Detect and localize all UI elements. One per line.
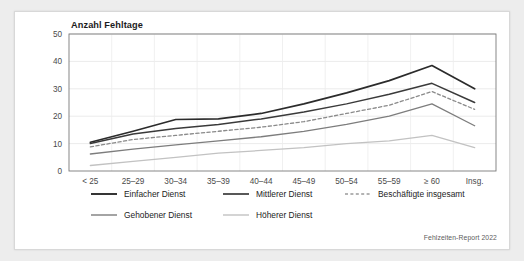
y-axis-tick-label: 30: [53, 85, 63, 94]
source-note: Fehlzeiten-Report 2022: [424, 234, 497, 241]
legend-label-besch-ftigte-insgesamt: Beschäftigte insgesamt: [378, 189, 465, 199]
legend-label-gehobener-dienst: Gehobener Dienst: [124, 210, 193, 220]
x-axis-tick-label: Insg.: [466, 177, 484, 186]
legend-label-einfacher-dienst: Einfacher Dienst: [124, 189, 186, 199]
x-axis-tick-label: 25–29: [122, 177, 145, 186]
x-axis-tick-label: 35–39: [207, 177, 230, 186]
x-axis-tick-label: 30–34: [164, 177, 187, 186]
y-axis-tick-label: 0: [57, 167, 62, 176]
x-axis-tick-label: ≥ 60: [424, 177, 440, 186]
line-chart: 01020304050< 2525–2930–3435–3940–4445–49…: [15, 12, 511, 251]
legend-label-h-herer-dienst: Höherer Dienst: [256, 210, 313, 220]
y-axis-tick-label: 50: [53, 30, 63, 39]
x-axis-tick-label: 45–49: [292, 177, 315, 186]
chart-canvas: 01020304050< 2525–2930–3435–3940–4445–49…: [15, 12, 511, 251]
x-axis-tick-label: 55–59: [378, 177, 401, 186]
y-axis-tick-label: 20: [53, 112, 63, 121]
y-axis-tick-label: 40: [53, 57, 63, 66]
x-axis-tick-label: 50–54: [335, 177, 358, 186]
legend-label-mittlerer-dienst: Mittlerer Dienst: [256, 189, 313, 199]
chart-card: Anzahl Fehltage 01020304050< 2525–2930–3…: [14, 11, 510, 250]
y-axis-tick-label: 10: [53, 140, 63, 149]
x-axis-tick-label: 40–44: [250, 177, 273, 186]
x-axis-tick-label: < 25: [82, 177, 99, 186]
